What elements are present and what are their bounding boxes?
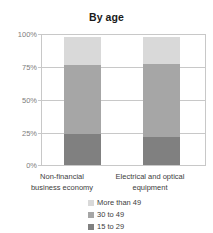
bar-segment-15-to-29[interactable] xyxy=(64,134,101,165)
legend-swatch-icon xyxy=(88,224,94,230)
chart-container: By age 100% 75% 50% 25% 0% Non-financial… xyxy=(0,0,213,233)
y-axis-tick-label-25: 25% xyxy=(3,130,37,138)
y-axis-tick-label-75: 75% xyxy=(3,64,37,72)
category-label-line-1: Non-financial xyxy=(19,171,105,182)
bar-electrical-and-optical-equipment[interactable] xyxy=(143,37,180,165)
category-label-line-2: equipment xyxy=(107,182,193,193)
chart-title: By age xyxy=(0,11,213,23)
legend-item-30-to-49[interactable]: 30 to 49 xyxy=(88,209,206,220)
x-axis-category-label-1: Electrical and optical equipment xyxy=(107,171,193,193)
bar-segment-more-than-49[interactable] xyxy=(64,37,101,65)
chart-legend: More than 49 30 to 49 15 to 29 xyxy=(88,197,206,233)
bar-segment-30-to-49[interactable] xyxy=(143,64,180,137)
bar-segment-30-to-49[interactable] xyxy=(64,65,101,134)
legend-label: 30 to 49 xyxy=(97,210,124,219)
legend-swatch-icon xyxy=(88,212,94,218)
bar-non-financial-business-economy[interactable] xyxy=(64,37,101,165)
legend-item-more-than-49[interactable]: More than 49 xyxy=(88,197,206,208)
category-label-line-1: Electrical and optical xyxy=(107,171,193,182)
x-axis-category-label-0: Non-financial business economy xyxy=(19,171,105,193)
legend-swatch-icon xyxy=(88,200,94,206)
y-axis-tick-label-50: 50% xyxy=(3,97,37,105)
y-axis-tick-label-0: 0% xyxy=(3,162,37,170)
bar-segment-more-than-49[interactable] xyxy=(143,37,180,64)
legend-label: 15 to 29 xyxy=(97,222,124,231)
category-label-line-2: business economy xyxy=(19,182,105,193)
plot-area xyxy=(41,34,206,166)
legend-item-15-to-29[interactable]: 15 to 29 xyxy=(88,221,206,232)
legend-label: More than 49 xyxy=(97,198,141,207)
y-axis-tick-label-100: 100% xyxy=(3,31,37,39)
bar-segment-15-to-29[interactable] xyxy=(143,137,180,165)
